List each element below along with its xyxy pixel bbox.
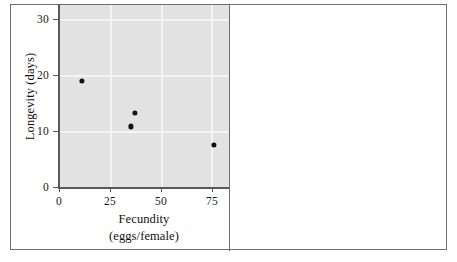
gridline-y-30 [59,19,229,21]
panel-longevity-vs-fecundity: 30 20 10 0 0 25 50 75 Fecundity (eggs/fe… [0,0,229,262]
x-tick-50 [161,187,163,192]
gridline-x-25 [110,5,112,187]
y-axis-line-left [58,5,60,187]
plot-area-left [59,5,229,187]
x-axis-subtitle-left: (eggs/female) [59,229,229,244]
gridline-x-50 [161,5,163,187]
gridline-x-75 [211,5,213,187]
x-tick-0 [59,187,61,192]
x-ticklabel-25: 25 [104,195,116,207]
gridline-y-10 [59,131,229,133]
x-tick-75 [212,187,214,192]
x-axis-line-left [58,187,229,189]
x-axis-title-left: Fecundity [59,212,229,227]
data-point [128,124,133,129]
y-tick-10 [53,131,58,133]
y-tick-20 [53,75,58,77]
x-ticklabel-75: 75 [206,195,218,207]
x-ticklabel-50: 50 [155,195,167,207]
data-point [80,78,85,83]
gridline-y-20 [59,75,229,77]
y-tick-30 [53,19,58,21]
x-tick-25 [110,187,112,192]
panel-clutch-size-vs-brood-manipulation: 7 6 5 –2 –1 0 +1 +2 Brood size manipulat… [229,0,457,262]
x-ticklabel-0: 0 [56,195,62,207]
figure-container: 30 20 10 0 0 25 50 75 Fecundity (eggs/fe… [0,0,457,262]
data-point [211,142,216,147]
data-point [132,110,137,115]
y-axis-title-left: Longevity (days) [23,7,38,187]
